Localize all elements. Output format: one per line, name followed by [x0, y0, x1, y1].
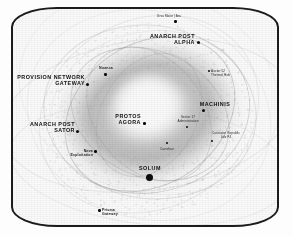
poi-label: PROVISION NETWORK GATEWAY [15, 74, 85, 87]
poi-marker-sector-17-administration[interactable] [186, 126, 188, 128]
poi-cunctator-republic-lab-p4[interactable]: Cunctator Republic Lab P4 [195, 131, 257, 139]
crt-bezel-frame: Ursa Maior | Ara ANARCH POST ALPHA Nuanc… [11, 7, 279, 227]
poi-label: ANARCH POST SATOR [15, 121, 75, 134]
poi-carrefour[interactable]: Carrefour [148, 147, 186, 151]
poi-label: ANARCH POST ALPHA [123, 33, 195, 46]
poi-label: Nuanca [89, 66, 123, 70]
poi-label: MACHINIS [191, 101, 239, 107]
poi-marker-cunctator-republic-lab-p4[interactable] [211, 140, 213, 142]
poi-ursa-maior-ara[interactable]: Ursa Maior | Ara [133, 14, 205, 18]
poi-marker-nova-exploitation[interactable] [94, 150, 97, 153]
poi-nova-exploitation[interactable]: Nova Exploitation [55, 149, 93, 158]
poi-marker-nuanca[interactable] [104, 73, 107, 76]
poi-marker-carrefour[interactable] [166, 142, 168, 144]
screen-viewport: Ursa Maior | Ara ANARCH POST ALPHA Nuanc… [13, 9, 277, 225]
poi-label: Cunctator Republic Lab P4 [195, 131, 257, 139]
star-map-screen: Ursa Maior | Ara ANARCH POST ALPHA Nuanc… [0, 0, 293, 237]
poi-marker-solum[interactable] [146, 174, 153, 181]
poi-label: Auctor 52 Thermal Hub [211, 69, 267, 77]
poi-auctor-52-thermal-hub[interactable]: Auctor 52 Thermal Hub [211, 69, 267, 77]
poi-label: Nova Exploitation [55, 149, 93, 158]
poi-label: Carrefour [148, 147, 186, 151]
poi-nuanca[interactable]: Nuanca [89, 66, 123, 70]
poi-label: Sector 17 Administration [161, 115, 215, 123]
poi-sector-17-administration[interactable]: Sector 17 Administration [161, 115, 215, 123]
poi-label: PROTOS AGORA [99, 113, 141, 126]
poi-marker-prisma-gateway[interactable] [98, 209, 101, 212]
poi-provision-network-gateway[interactable]: PROVISION NETWORK GATEWAY [15, 74, 85, 87]
poi-label: Prisma Gateway [102, 208, 146, 217]
poi-marker-protos-agora[interactable] [143, 122, 146, 125]
poi-protos-agora[interactable]: PROTOS AGORA [99, 113, 141, 126]
poi-anarch-post-sator[interactable]: ANARCH POST SATOR [15, 121, 75, 134]
poi-prisma-gateway[interactable]: Prisma Gateway [102, 208, 146, 217]
poi-label: Ursa Maior | Ara [133, 14, 205, 18]
poi-solum[interactable]: SOLUM [125, 165, 175, 171]
poi-machinis[interactable]: MACHINIS [191, 101, 239, 107]
poi-marker-auctor-52-thermal-hub[interactable] [208, 70, 210, 72]
poi-label: SOLUM [125, 165, 175, 171]
poi-anarch-post-alpha[interactable]: ANARCH POST ALPHA [123, 33, 195, 46]
poi-marker-ursa-maior-ara[interactable] [174, 20, 177, 23]
